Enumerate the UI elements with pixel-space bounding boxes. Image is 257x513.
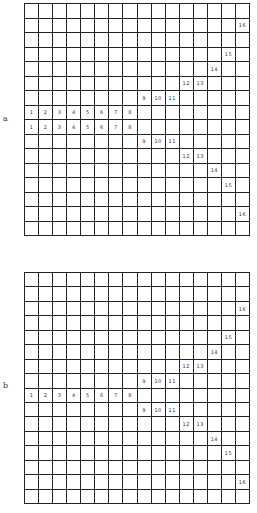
grid-cell — [193, 301, 207, 315]
grid-cell — [122, 474, 136, 488]
grid-cell: 14 — [207, 431, 221, 445]
grid-cell — [179, 105, 193, 120]
grid-cell — [122, 445, 136, 459]
grid-cell — [165, 221, 179, 236]
grid-cell — [38, 177, 52, 192]
grid-cell — [108, 416, 122, 430]
grid-cell — [235, 330, 249, 344]
grid-cell: 9 — [137, 134, 151, 149]
grid-cell — [151, 474, 165, 488]
grid-cell — [221, 163, 235, 178]
grid-cell — [80, 402, 94, 416]
grid-cell — [80, 76, 94, 91]
grid-cell — [94, 330, 108, 344]
grid-cell — [108, 163, 122, 178]
grid-cell — [193, 47, 207, 62]
grid-cell — [193, 163, 207, 178]
grid-cell — [137, 105, 151, 120]
grid-cell — [137, 76, 151, 91]
grid-cell — [221, 148, 235, 163]
grid-cell — [137, 18, 151, 33]
grid-cell — [221, 344, 235, 358]
grid-cell — [221, 105, 235, 120]
grid-cell — [235, 445, 249, 459]
grid-cell — [66, 148, 80, 163]
grid-cell — [221, 359, 235, 373]
grid-cell — [235, 315, 249, 329]
grid-cell — [151, 163, 165, 178]
grid-cell — [165, 416, 179, 430]
grid-cell — [94, 416, 108, 430]
grid-cell — [207, 76, 221, 91]
grid-cell — [94, 445, 108, 459]
grid-cell — [207, 134, 221, 149]
grid-cell — [207, 489, 221, 503]
panel-a-grid: 1615141213910111234567812345678910111213… — [24, 3, 250, 236]
grid-cell — [151, 431, 165, 445]
grid-cell — [207, 416, 221, 430]
grid-cell — [137, 359, 151, 373]
grid-cell — [80, 373, 94, 387]
grid-cell — [137, 388, 151, 402]
grid-cell — [207, 315, 221, 329]
grid-cell: 5 — [80, 105, 94, 120]
grid-cell — [122, 301, 136, 315]
grid-cell — [207, 192, 221, 207]
grid-cell — [38, 76, 52, 91]
grid-cell — [207, 359, 221, 373]
grid-cell — [151, 359, 165, 373]
grid-cell — [80, 47, 94, 62]
grid-cell — [108, 474, 122, 488]
grid-cell — [179, 61, 193, 76]
grid-cell — [151, 344, 165, 358]
grid-cell — [235, 221, 249, 236]
grid-cell — [151, 388, 165, 402]
grid-cell — [207, 460, 221, 474]
grid-cell: 1 — [24, 119, 38, 134]
grid-cell: 12 — [179, 76, 193, 91]
grid-cell — [137, 301, 151, 315]
grid-cell — [137, 315, 151, 329]
grid-cell — [122, 47, 136, 62]
grid-cell — [165, 286, 179, 300]
grid-cell — [122, 18, 136, 33]
grid-cell — [137, 3, 151, 18]
grid-cell — [80, 61, 94, 76]
grid-cell: 3 — [52, 105, 66, 120]
grid-cell: 15 — [221, 177, 235, 192]
grid-cell: 4 — [66, 388, 80, 402]
grid-cell — [52, 206, 66, 221]
grid-cell: 8 — [122, 388, 136, 402]
grid-cell: 4 — [66, 119, 80, 134]
grid-cell — [122, 177, 136, 192]
grid-cell — [221, 206, 235, 221]
grid-cell — [151, 148, 165, 163]
grid-cell — [193, 474, 207, 488]
grid-cell — [165, 388, 179, 402]
grid-cell — [38, 373, 52, 387]
grid-cell — [24, 431, 38, 445]
grid-cell — [52, 18, 66, 33]
grid-cell — [151, 272, 165, 286]
grid-cell — [94, 272, 108, 286]
grid-cell — [235, 32, 249, 47]
grid-cell — [52, 192, 66, 207]
grid-cell — [52, 344, 66, 358]
grid-cell — [207, 47, 221, 62]
grid-cell — [52, 272, 66, 286]
grid-cell — [221, 286, 235, 300]
grid-cell — [137, 460, 151, 474]
grid-cell — [122, 32, 136, 47]
grid-cell — [38, 221, 52, 236]
grid-cell: 9 — [137, 373, 151, 387]
grid-cell — [80, 148, 94, 163]
grid-cell — [165, 474, 179, 488]
grid-cell — [193, 373, 207, 387]
grid-cell — [80, 460, 94, 474]
grid-cell — [193, 330, 207, 344]
grid-cell — [179, 32, 193, 47]
grid-cell — [38, 489, 52, 503]
grid-cell — [108, 272, 122, 286]
grid-cell — [94, 359, 108, 373]
grid-cell — [179, 206, 193, 221]
